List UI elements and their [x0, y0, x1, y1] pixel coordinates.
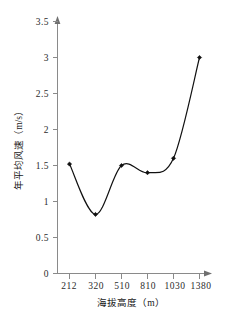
x-axis-ticks [70, 274, 200, 279]
wind-speed-altitude-chart: 0 0.5 1 1.5 2 2.5 3 3.5 212 320 510 810 … [0, 0, 231, 315]
arrow-up-icon [55, 16, 61, 24]
x-tick-label-0: 212 [61, 281, 77, 291]
series-markers [67, 55, 201, 216]
y-tick-label-5: 2.5 [36, 89, 49, 99]
data-point-marker [67, 162, 71, 166]
chart-canvas: 0 0.5 1 1.5 2 2.5 3 3.5 212 320 510 810 … [0, 0, 231, 315]
data-point-marker [171, 156, 175, 160]
data-point-marker [197, 55, 201, 59]
x-axis-title: 海拔高度（m） [97, 297, 164, 308]
y-axis-ticks [53, 22, 58, 274]
y-axis-tick-labels: 0 0.5 1 1.5 2 2.5 3 3.5 [36, 17, 49, 279]
y-tick-label-6: 3 [44, 53, 49, 63]
y-tick-label-7: 3.5 [36, 17, 49, 27]
x-tick-label-3: 810 [140, 281, 156, 291]
y-tick-label-3: 1.5 [36, 161, 49, 171]
data-point-marker [93, 212, 97, 216]
x-axis-tick-labels: 212 320 510 810 1030 1380 [61, 281, 211, 291]
arrow-right-icon [204, 271, 212, 277]
y-tick-label-0: 0 [44, 269, 49, 279]
y-axis-title: 年平均风速（m/s） [13, 106, 24, 190]
series-line-wind-speed [70, 58, 200, 215]
x-tick-label-5: 1380 [191, 281, 212, 291]
y-tick-label-1: 0.5 [36, 233, 49, 243]
y-tick-label-2: 1 [44, 197, 49, 207]
y-tick-label-4: 2 [44, 125, 49, 135]
x-tick-label-2: 510 [114, 281, 130, 291]
x-tick-label-1: 320 [88, 281, 104, 291]
data-point-marker [145, 171, 149, 175]
x-tick-label-4: 1030 [165, 281, 186, 291]
